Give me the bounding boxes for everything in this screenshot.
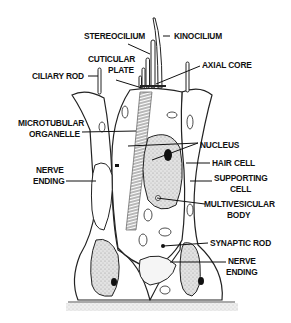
label-cuticular-plate-2: PLATE xyxy=(108,65,134,75)
label-synaptic-rod: SYNAPTIC ROD xyxy=(210,238,271,248)
label-ciliary-rod: CILIARY ROD xyxy=(32,71,84,81)
hair-cell-nucleus xyxy=(143,135,182,209)
synaptic-body-left xyxy=(115,164,119,167)
right-nucleolus xyxy=(198,277,204,285)
right-support-nucleus xyxy=(180,243,200,296)
label-supporting-cell-1: SUPPORTING xyxy=(214,173,268,183)
label-nerve-ending-right-1: NERVE xyxy=(228,256,256,266)
basement-membrane xyxy=(66,302,238,311)
ciliary-rod-left-shape xyxy=(98,68,101,94)
label-nerve-ending-left-1: NERVE xyxy=(36,165,64,175)
label-kinocilium: KINOCILIUM xyxy=(174,31,222,41)
left-nucleolus xyxy=(111,278,117,286)
label-microtubular-organelle-1: MICROTUBULAR xyxy=(18,118,84,128)
label-microtubular-organelle-2: ORGANELLE xyxy=(29,129,80,139)
label-supporting-cell-2: CELL xyxy=(230,184,251,194)
label-cuticular-plate-1: CUTICULAR xyxy=(88,54,135,64)
label-nucleus: NUCLEUS xyxy=(200,140,239,150)
label-nerve-ending-right-2: ENDING xyxy=(226,267,257,277)
label-multivesicular-body-2: BODY xyxy=(227,210,250,220)
label-stereocilium: STEREOCILIUM xyxy=(84,31,145,41)
label-axial-core: AXIAL CORE xyxy=(202,60,252,70)
label-nerve-ending-left-2: ENDING xyxy=(33,176,64,186)
ciliary-rod-right-shape xyxy=(186,62,189,92)
label-multivesicular-body-1: MULTIVESICULAR xyxy=(204,199,275,209)
label-hair-cell: HAIR CELL xyxy=(212,158,255,168)
diagram-canvas: STEREOCILIUM KINOCILIUM CUTICULAR PLATE … xyxy=(0,0,291,323)
